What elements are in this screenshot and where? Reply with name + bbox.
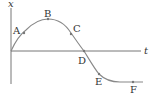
point-b-label: B: [44, 8, 51, 19]
point-e: E: [95, 73, 102, 87]
point-c: C: [70, 23, 81, 35]
point-c-label: C: [73, 23, 81, 34]
point-b: B: [44, 8, 51, 20]
point-e-marker: [98, 73, 100, 75]
point-c-marker: [70, 33, 72, 35]
position-time-graph: x t A B C D E F: [0, 0, 155, 93]
point-f: F: [130, 81, 137, 93]
point-d-label: D: [78, 55, 86, 66]
point-a: A: [12, 25, 25, 36]
point-d-marker: [83, 50, 85, 52]
vertical-axis-label: x: [8, 0, 14, 9]
point-e-label: E: [95, 76, 102, 87]
point-a-marker: [23, 32, 25, 34]
point-f-label: F: [130, 84, 137, 93]
horizontal-axis-label: t: [144, 45, 149, 56]
point-f-marker: [132, 81, 134, 83]
point-a-label: A: [12, 25, 21, 36]
